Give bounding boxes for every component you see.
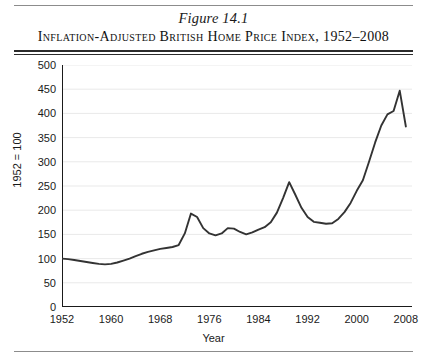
y-tick-label: 350 (20, 133, 56, 144)
y-tick-label: 200 (20, 205, 56, 216)
title-divider-upper (14, 50, 413, 52)
bottom-divider (14, 351, 413, 352)
x-tick-label: 1952 (40, 313, 84, 325)
title-divider-lower (14, 54, 413, 55)
y-tick-label: 300 (20, 157, 56, 168)
x-tick-label: 2000 (335, 313, 379, 325)
x-tick-label: 1992 (286, 313, 330, 325)
y-tick-label: 150 (20, 229, 56, 240)
plot-area (62, 65, 412, 307)
x-tick-label: 1984 (236, 313, 280, 325)
x-tick-label: 1960 (89, 313, 133, 325)
x-tick-label: 1968 (138, 313, 182, 325)
y-tick-label: 100 (20, 254, 56, 265)
y-tick-label: 250 (20, 181, 56, 192)
y-tick-label: 450 (20, 84, 56, 95)
figure-container: Figure 14.1 Inflation-Adjusted British H… (0, 0, 427, 361)
x-tick-label: 2008 (384, 313, 427, 325)
x-tick-label: 1976 (187, 313, 231, 325)
y-axis-tick-labels: 500450400350300250200150100500 (18, 65, 56, 307)
x-axis-tick-labels: 19521960196819761984199220002008 (62, 313, 414, 329)
figure-number: Figure 14.1 (0, 10, 427, 27)
y-axis-title: 1952 = 100 (11, 115, 23, 205)
top-divider (14, 5, 413, 6)
x-axis-title: Year (0, 332, 427, 344)
y-tick-label: 400 (20, 108, 56, 119)
price-index-line-chart (62, 65, 412, 307)
figure-title: Inflation-Adjusted British Home Price In… (0, 29, 427, 45)
y-tick-label: 50 (20, 278, 56, 289)
y-tick-label: 0 (20, 302, 56, 313)
y-tick-label: 500 (20, 60, 56, 71)
